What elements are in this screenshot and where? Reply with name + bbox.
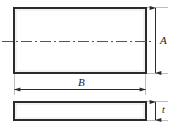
dimension-label-b: B — [78, 77, 85, 88]
engineering-drawing-canvas: A B t — [0, 0, 175, 128]
front-view-rectangle — [14, 8, 146, 73]
drawing-vector-layer — [0, 0, 175, 128]
dimension-label-t: t — [162, 105, 165, 115]
dimension-label-a: A — [160, 35, 167, 46]
edge-view-rectangle — [14, 102, 146, 120]
